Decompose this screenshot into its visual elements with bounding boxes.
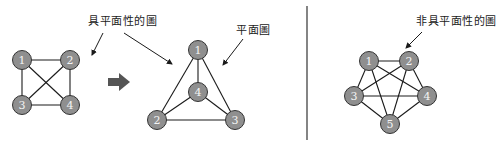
svg-text:1: 1 xyxy=(366,55,373,68)
k5-node-4: 4 xyxy=(418,87,437,106)
planar-graph-label: 具平面性的圖 xyxy=(88,16,157,28)
pointer-arrow-icon-1 xyxy=(92,33,103,55)
svg-text:2: 2 xyxy=(154,114,161,127)
svg-text:2: 2 xyxy=(67,54,74,67)
k5-node-1: 1 xyxy=(360,52,379,71)
k4_plane-node-3: 3 xyxy=(226,111,245,130)
transform-arrow-icon xyxy=(108,73,130,91)
svg-text:3: 3 xyxy=(232,114,239,127)
svg-text:4: 4 xyxy=(424,90,431,103)
k5-node-2: 2 xyxy=(400,52,419,71)
svg-text:5: 5 xyxy=(387,118,394,131)
nonplanar-graph-label: 非具平面性的圖 xyxy=(416,16,497,28)
k5-node-3: 3 xyxy=(345,87,364,106)
k4_plane-node-4: 4 xyxy=(189,83,208,102)
k4_plane-node-2: 2 xyxy=(148,111,167,130)
svg-text:2: 2 xyxy=(406,55,413,68)
pointer-arrow-icon-4 xyxy=(406,32,422,48)
svg-text:3: 3 xyxy=(351,90,358,103)
svg-text:3: 3 xyxy=(19,99,26,112)
pointer-arrow-icon-2 xyxy=(124,33,172,64)
k5-node-5: 5 xyxy=(381,115,400,134)
svg-text:4: 4 xyxy=(195,86,202,99)
k4_crossing-node-1: 1 xyxy=(13,51,32,70)
pointer-arrow-icon-3 xyxy=(223,39,243,65)
svg-text:1: 1 xyxy=(19,54,26,67)
k4_crossing-node-2: 2 xyxy=(61,51,80,70)
plane-graph-label: 平面圖 xyxy=(236,25,271,37)
svg-text:1: 1 xyxy=(195,44,202,57)
k4_plane-node-1: 1 xyxy=(189,41,208,60)
k4_crossing-node-3: 3 xyxy=(13,96,32,115)
k4_crossing-node-4: 4 xyxy=(61,96,80,115)
svg-text:4: 4 xyxy=(67,99,74,112)
